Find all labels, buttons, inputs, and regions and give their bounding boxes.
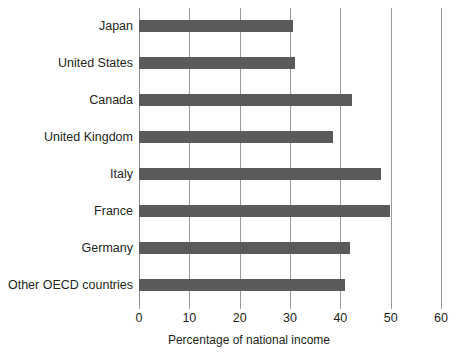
gridline-30 [290, 8, 291, 303]
tick-label-20: 20 [233, 311, 247, 325]
bar [139, 242, 350, 254]
bar [139, 205, 390, 217]
gridline-50 [391, 8, 392, 303]
bar [139, 20, 293, 32]
tick-label-10: 10 [182, 311, 196, 325]
tick-mark-60 [441, 303, 442, 309]
x-axis-title: Percentage of national income [0, 333, 460, 347]
gridline-20 [240, 8, 241, 303]
tick-label-0: 0 [136, 311, 143, 325]
bar [139, 168, 381, 180]
category-label: Other OECD countries [0, 279, 133, 292]
bar-chart: JapanUnited StatesCanadaUnited KingdomIt… [0, 0, 460, 357]
tick-mark-50 [391, 303, 392, 309]
bar [139, 131, 333, 143]
bar [139, 279, 345, 291]
tick-label-50: 50 [384, 311, 398, 325]
category-label: United Kingdom [0, 131, 133, 144]
tick-mark-40 [340, 303, 341, 309]
tick-mark-30 [290, 303, 291, 309]
bar [139, 94, 352, 106]
bar [139, 57, 295, 69]
gridline-40 [340, 8, 341, 303]
category-label: Germany [0, 242, 133, 255]
plot-area [139, 8, 441, 303]
tick-label-40: 40 [333, 311, 347, 325]
category-label: Italy [0, 168, 133, 181]
gridline-0 [139, 8, 140, 303]
tick-label-30: 30 [283, 311, 297, 325]
gridline-10 [189, 8, 190, 303]
category-label: France [0, 205, 133, 218]
tick-label-60: 60 [434, 311, 448, 325]
category-label: United States [0, 57, 133, 70]
category-label: Japan [0, 20, 133, 33]
gridline-60 [441, 8, 442, 303]
tick-mark-0 [139, 303, 140, 309]
category-axis-labels: JapanUnited StatesCanadaUnited KingdomIt… [0, 8, 133, 303]
tick-mark-20 [240, 303, 241, 309]
x-axis-title-text: Percentage of national income [168, 333, 330, 347]
tick-mark-10 [189, 303, 190, 309]
category-label: Canada [0, 94, 133, 107]
